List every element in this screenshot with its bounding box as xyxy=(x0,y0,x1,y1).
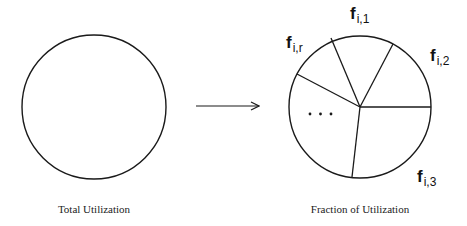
ellipsis-dots xyxy=(309,113,333,116)
diagram-canvas: Total Utilization fi,1fi,2fi,3fi,r Fract… xyxy=(0,0,467,226)
fraction-pie-chart xyxy=(289,36,431,178)
slice-labels: fi,1fi,2fi,3fi,r xyxy=(286,4,450,189)
fraction-utilization-caption: Fraction of Utilization xyxy=(311,203,410,215)
pie-spoke xyxy=(360,44,393,107)
slice-label: fi,3 xyxy=(417,167,437,189)
pie-spoke xyxy=(352,107,360,177)
pie-spoke xyxy=(297,74,360,107)
utilization-diagram: Total Utilization fi,1fi,2fi,3fi,r Fract… xyxy=(0,0,467,226)
slice-label: fi,2 xyxy=(430,46,450,68)
total-utilization-circle xyxy=(22,35,166,179)
total-utilization-caption: Total Utilization xyxy=(58,203,131,215)
pie-spoke xyxy=(331,38,360,107)
slice-label: fi,r xyxy=(286,33,303,55)
slice-label: fi,1 xyxy=(350,4,370,26)
